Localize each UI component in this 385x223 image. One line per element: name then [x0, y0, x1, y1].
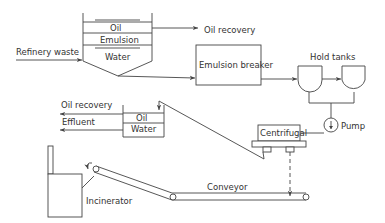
- separator-oil-label: Oil: [110, 23, 121, 33]
- emulsion-breaker-label: Emulsion breaker: [199, 60, 273, 70]
- pump-label: Pump: [341, 121, 365, 131]
- oil-water-settler: Oil Water: [123, 105, 164, 137]
- hold-tanks-label: Hold tanks: [310, 52, 356, 62]
- conveyor-belt: [93, 166, 309, 200]
- refinery-waste-label: Refinery waste: [16, 47, 79, 57]
- separator-water-label: Water: [105, 52, 131, 62]
- oil-recovery-top-label: Oil recovery: [204, 25, 255, 35]
- incinerator-label: Incinerator: [86, 196, 133, 206]
- separator-tank: Oil Emulsion Water: [83, 13, 152, 76]
- conveyor-rotation-arrow: [88, 163, 93, 169]
- hold-tank-1: [298, 66, 322, 92]
- conveyor-label: Conveyor: [207, 182, 248, 192]
- centrifugal-base: [252, 141, 306, 147]
- incinerator: [48, 146, 94, 217]
- hold-tank-2: [342, 66, 365, 89]
- settler-water-label: Water: [131, 124, 157, 134]
- oil-recovery-left-label: Oil recovery: [61, 100, 112, 110]
- separator-to-breaker-arrow: [118, 76, 195, 78]
- tanks-manifold: [309, 92, 354, 103]
- settler-oil-label: Oil: [136, 113, 147, 123]
- effluent-label: Effluent: [62, 117, 96, 127]
- process-flow-diagram: Oil Emulsion Water Refinery waste Oil re…: [0, 0, 385, 223]
- centrifugal-to-settler-line: [159, 101, 264, 159]
- separator-emulsion-label: Emulsion: [100, 35, 139, 45]
- centrifugal-label: Centrifugal: [260, 128, 307, 138]
